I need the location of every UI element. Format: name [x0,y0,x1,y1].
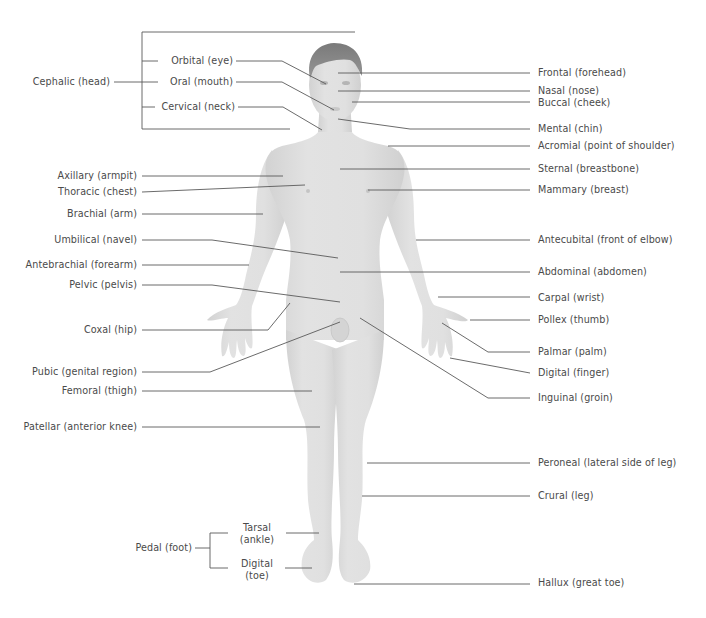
label-tarsal-line1: Tarsal [230,522,284,534]
label-oral: Oral (mouth) [150,76,233,88]
label-mental: Mental (chin) [538,123,603,135]
torso [266,128,405,340]
label-mammary: Mammary (breast) [538,184,629,196]
label-digital-toe: Digital (toe) [230,558,284,582]
left-leg [286,330,340,583]
label-umbilical: Umbilical (navel) [10,234,137,246]
right-leg [332,330,384,583]
label-nasal: Nasal (nose) [538,85,599,97]
label-tarsal: Tarsal (ankle) [230,522,284,546]
label-palmar: Palmar (palm) [538,346,607,358]
label-digital-finger: Digital (finger) [538,367,609,379]
label-digital-toe-line2: (toe) [230,570,284,582]
label-inguinal: Inguinal (groin) [538,392,613,404]
label-antecubital: Antecubital (front of elbow) [538,234,673,246]
right-eye [342,81,350,85]
label-buccal: Buccal (cheek) [538,97,610,109]
label-crural: Crural (leg) [538,490,594,502]
label-pelvic: Pelvic (pelvis) [10,279,137,291]
label-axillary: Axillary (armpit) [20,170,137,182]
genital-shape [331,318,349,342]
label-antebrachial: Antebrachial (forearm) [0,259,137,271]
label-hallux: Hallux (great toe) [538,577,624,589]
label-peroneal: Peroneal (lateral side of leg) [538,457,676,469]
label-acromial: Acromial (point of shoulder) [538,140,675,152]
label-thoracic: Thoracic (chest) [20,186,137,198]
label-tarsal-line2: (ankle) [230,534,284,546]
label-pollex: Pollex (thumb) [538,314,609,326]
left-nipple [306,189,310,193]
label-abdominal: Abdominal (abdomen) [538,266,647,278]
label-orbital: Orbital (eye) [150,55,233,67]
label-pedal: Pedal (foot) [100,542,192,554]
label-frontal: Frontal (forehead) [538,67,626,79]
human-body-figure [0,0,706,618]
label-patellar: Patellar (anterior knee) [0,421,137,433]
label-femoral: Femoral (thigh) [10,385,137,397]
body-regions-diagram: Cephalic (head) Orbital (eye) Oral (mout… [0,0,706,618]
label-digital-toe-line1: Digital [230,558,284,570]
label-brachial: Brachial (arm) [20,208,137,220]
label-pubic: Pubic (genital region) [0,366,137,378]
label-sternal: Sternal (breastbone) [538,163,639,175]
label-cervical: Cervical (neck) [140,101,235,113]
label-carpal: Carpal (wrist) [538,292,604,304]
label-coxal: Coxal (hip) [10,324,137,336]
label-cephalic: Cephalic (head) [20,76,110,88]
